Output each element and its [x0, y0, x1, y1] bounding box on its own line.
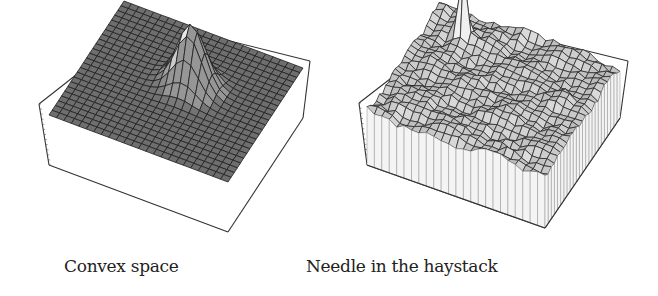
surface-plot-svg	[329, 0, 658, 245]
caption-needle-in-haystack: Needle in the haystack	[306, 256, 497, 276]
surface-mesh	[49, 1, 303, 182]
needle-haystack-surface-plot	[329, 0, 658, 245]
surface-plot-svg	[0, 0, 330, 245]
caption-convex-space: Convex space	[64, 256, 179, 276]
convex-space-surface-plot	[0, 0, 330, 245]
